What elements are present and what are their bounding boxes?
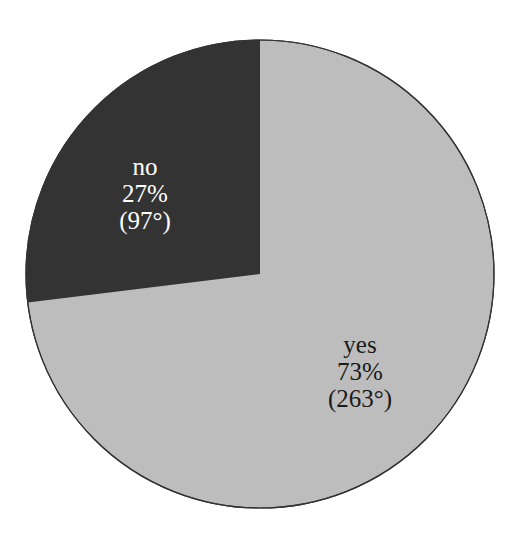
label-yes-percent: 73% [337,358,383,385]
label-yes-degrees: (263°) [328,385,392,413]
label-no-degrees: (97°) [119,207,171,235]
label-yes-name: yes [343,331,376,358]
pie-slices [26,40,494,508]
label-no-name: no [133,153,158,180]
label-no-percent: 27% [122,180,168,207]
pie-chart: no 27% (97°) yes 73% (263°) [0,0,514,547]
